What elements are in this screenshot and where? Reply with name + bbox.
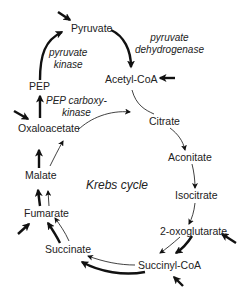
arrow-input-fumarate [18, 224, 29, 234]
arrow-fumarate-to-malate-thin [48, 191, 49, 206]
arrow-input-succinylcoa [174, 277, 183, 286]
arrow-malate-to-oxaloacetate-thin [50, 141, 63, 166]
arrow-isocitrate-to-oxoglutarate [189, 203, 195, 224]
arrow-fumarate-to-malate-thick [38, 190, 40, 206]
metabolite-2-oxoglutarate: 2-oxoglutarate [160, 226, 227, 237]
metabolite-pyruvate: Pyruvate [71, 23, 112, 34]
arrow-citrate-to-aconitate [170, 128, 185, 150]
arrow-succinylcoa-to-succinate-thin [88, 256, 135, 265]
metabolite-succinyl-coa: Succinyl-CoA [138, 260, 201, 271]
arrow-succinate-to-fumarate-thick [48, 223, 60, 243]
metabolite-oxaloacetate: Oxaloacetate [18, 123, 80, 134]
arrow-oxoglutarate-to-succinylcoa-thin [160, 237, 180, 253]
metabolite-citrate: Citrate [149, 116, 180, 127]
metabolite-isocitrate: Isocitrate [175, 190, 218, 201]
arrow-succinylcoa-to-succinate-thick [82, 262, 145, 274]
arrow-acetylcoa-to-citrate [132, 90, 154, 114]
metabolite-succinate: Succinate [45, 244, 91, 255]
arrow-pyruvate-to-acetylcoa [111, 30, 131, 67]
metabolite-pep: PEP [29, 81, 50, 92]
enzyme-pyruvate-dehydrogenase: pyruvate dehydrogenase [135, 32, 204, 55]
enzyme-pep-carboxykinase: PEP carboxy- kinase [46, 95, 107, 118]
arrow-input-oxaloacetate [14, 111, 28, 119]
metabolite-malate: Malate [25, 170, 57, 181]
pathway-arrows [0, 0, 244, 297]
arrow-aconitate-to-isocitrate [192, 164, 195, 188]
enzyme-pyruvate-kinase: pyruvate kinase [49, 47, 87, 70]
metabolite-acetyl-coa: Acetyl-CoA [105, 74, 158, 85]
metabolite-fumarate: Fumarate [24, 208, 69, 219]
metabolite-aconitate: Aconitate [168, 152, 212, 163]
diagram-title: Krebs cycle [86, 178, 148, 192]
arrow-input-pyruvate [58, 12, 70, 20]
